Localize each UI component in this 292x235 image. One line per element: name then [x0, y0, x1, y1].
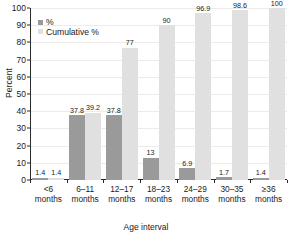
bar-group: 1.4100 — [250, 8, 287, 180]
x-axis-category-label: 18–23months — [140, 185, 177, 205]
chart-legend: % Cumulative % — [38, 18, 99, 37]
legend-label-percent: % — [46, 18, 54, 27]
x-axis-tick-mark — [250, 180, 251, 183]
x-axis-category-line: months — [250, 195, 287, 205]
bar-value-label: 77 — [126, 39, 134, 46]
x-axis-category-line: months — [103, 195, 140, 205]
bar-cumulative: 100 — [269, 8, 285, 180]
legend-item-percent: % — [38, 18, 99, 27]
x-axis-tick-mark — [140, 180, 141, 183]
x-axis-category-line: months — [67, 195, 104, 205]
bar-percent: 6.9 — [179, 168, 195, 180]
x-axis-category-line: months — [214, 195, 251, 205]
bar-value-label: 98.6 — [233, 2, 247, 9]
x-axis-category-label: <6months — [30, 185, 67, 205]
x-axis-tick-mark — [214, 180, 215, 183]
bar-cumulative: 98.6 — [232, 10, 248, 180]
x-axis-category-label: 24–29months — [177, 185, 214, 205]
bar-value-label: 90 — [163, 17, 171, 24]
x-axis-tick-mark — [30, 180, 31, 183]
x-axis-category-labels: <6months6–11months12–17months18–23months… — [30, 185, 287, 205]
bar-value-label: 39.2 — [86, 104, 100, 111]
bar-cumulative: 90 — [159, 25, 175, 180]
x-axis-tick-mark — [67, 180, 68, 183]
bar-value-label: 100 — [271, 0, 283, 7]
bar-value-label: 6.9 — [182, 160, 192, 167]
bar-cumulative: 77 — [122, 48, 138, 180]
bar-cumulative: 39.2 — [85, 113, 101, 180]
bar-value-label: 1.4 — [256, 169, 266, 176]
bar-group: 37.877 — [103, 8, 140, 180]
x-axis-category-label: 12–17months — [103, 185, 140, 205]
x-axis-tick-mark — [177, 180, 178, 183]
bar-percent: 13 — [143, 158, 159, 180]
bar-percent: 37.8 — [106, 115, 122, 180]
legend-swatch-percent-icon — [38, 20, 43, 25]
bar-value-label: 13 — [147, 149, 155, 156]
x-axis-category-line: months — [30, 195, 67, 205]
x-axis-category-line: months — [140, 195, 177, 205]
x-axis-title: Age interval — [0, 222, 292, 232]
x-axis-category-label: ≥36months — [250, 185, 287, 205]
bar-percent: 37.8 — [69, 115, 85, 180]
bar-cumulative: 96.9 — [195, 13, 211, 180]
x-axis-ticks — [30, 180, 287, 183]
x-axis-category-line: months — [177, 195, 214, 205]
legend-label-cumulative: Cumulative % — [46, 28, 99, 37]
legend-item-cumulative: Cumulative % — [38, 28, 99, 37]
x-axis-category-label: 30–35months — [214, 185, 251, 205]
bar-value-label: 1.4 — [35, 169, 45, 176]
bar-value-label: 1.4 — [51, 169, 61, 176]
bar-group: 1.798.6 — [214, 8, 251, 180]
bar-chart: Percent 0102030405060708090100 1.41.437.… — [0, 0, 292, 235]
bar-value-label: 37.8 — [107, 107, 121, 114]
bar-group: 6.996.9 — [177, 8, 214, 180]
bar-value-label: 96.9 — [196, 5, 210, 12]
y-axis-title: Percent — [4, 53, 14, 113]
x-axis-category-label: 6–11months — [67, 185, 104, 205]
x-axis-tick-mark — [103, 180, 104, 183]
bar-value-label: 37.8 — [70, 107, 84, 114]
bar-value-label: 1.7 — [219, 169, 229, 176]
legend-swatch-cumulative-icon — [38, 29, 43, 34]
x-axis-tick-mark — [287, 180, 288, 183]
bar-group: 1390 — [140, 8, 177, 180]
